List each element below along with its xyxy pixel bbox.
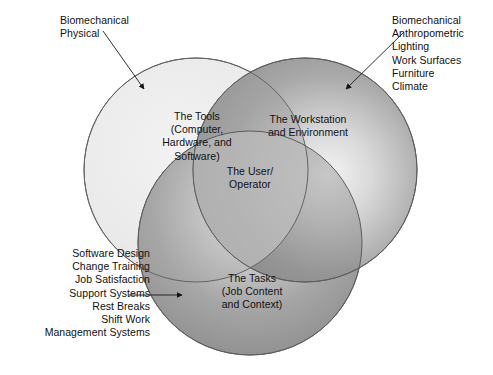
label-the-tools: The Tools (Computer, Hardware, and Softw… (128, 110, 266, 163)
callout-tools-factors: Biomechanical Physical (60, 14, 190, 40)
label-the-user-operator: The User/ Operator (196, 165, 304, 191)
callout-tasks-factors: Software Design Change Training Job Sati… (8, 247, 150, 339)
label-the-workstation-and-environment: The Workstation and Environment (250, 113, 366, 139)
label-the-tasks: The Tasks (Job Content and Context) (192, 272, 312, 312)
venn-diagram-canvas: Biomechanical Physical Biomechanical Ant… (0, 0, 493, 375)
callout-workstation-factors: Biomechanical Anthropometric Lighting Wo… (392, 14, 492, 93)
